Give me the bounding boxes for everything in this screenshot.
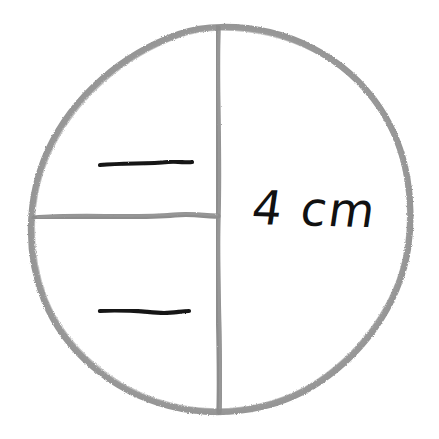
diagram-canvas: 4 cm: [0, 0, 439, 439]
vertical-diameter-line: [217, 28, 220, 412]
tick-mark-lower: [100, 310, 189, 313]
horizontal-radius-line: [34, 213, 218, 218]
tick-mark-upper: [100, 162, 192, 165]
measurement-label: 4 cm: [249, 184, 380, 234]
